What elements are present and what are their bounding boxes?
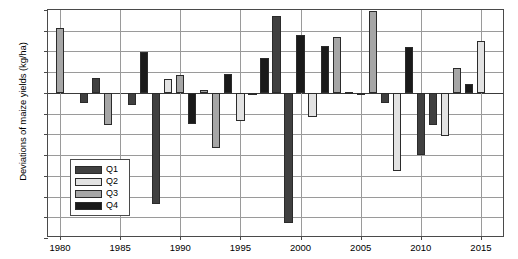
legend: Q1Q2Q3Q4 xyxy=(70,159,130,216)
legend-label: Q3 xyxy=(106,189,118,198)
bar xyxy=(345,92,353,94)
legend-item-q1[interactable]: Q1 xyxy=(75,164,125,175)
vertical-gridline xyxy=(240,10,241,236)
y-tick-mark xyxy=(44,197,48,198)
y-tick-mark xyxy=(44,72,48,73)
bar xyxy=(260,58,268,93)
legend-item-q2[interactable]: Q2 xyxy=(75,176,125,187)
bar xyxy=(140,52,148,93)
x-tick-mark xyxy=(180,236,181,240)
bar xyxy=(176,75,184,92)
y-tick-mark xyxy=(44,93,48,94)
y-tick-mark xyxy=(44,31,48,32)
x-tick-mark xyxy=(421,236,422,240)
y-axis-title: Deviations of maize yields (kg/ha) xyxy=(17,12,28,212)
bar xyxy=(405,47,413,93)
y-tick-mark xyxy=(44,114,48,115)
bar xyxy=(212,93,220,148)
bar xyxy=(200,90,208,93)
bar xyxy=(224,74,232,93)
legend-label: Q2 xyxy=(106,177,118,186)
x-tick-mark xyxy=(301,236,302,240)
x-tick-label: 1995 xyxy=(220,242,260,253)
y-tick-mark xyxy=(44,10,48,11)
bar xyxy=(188,93,196,124)
legend-swatch-q1 xyxy=(75,166,102,174)
y-tick-mark xyxy=(44,176,48,177)
bar xyxy=(104,93,112,125)
legend-swatch-q2 xyxy=(75,178,102,186)
bar xyxy=(381,93,389,103)
vertical-gridline xyxy=(180,10,181,236)
plot-area: 2000150010005000-500-1000-1500-2000-2500… xyxy=(47,9,504,237)
x-tick-label: 1990 xyxy=(160,242,200,253)
bar xyxy=(477,41,485,93)
x-tick-mark xyxy=(120,236,121,240)
gridline xyxy=(48,217,503,218)
bar xyxy=(128,93,136,105)
bar xyxy=(429,93,437,125)
legend-swatch-q3 xyxy=(75,190,102,198)
bar xyxy=(56,28,64,93)
gridline xyxy=(48,134,503,135)
bar xyxy=(333,37,341,93)
bar xyxy=(357,93,365,95)
x-tick-label: 2010 xyxy=(401,242,441,253)
x-tick-label: 2000 xyxy=(281,242,321,253)
x-tick-mark xyxy=(361,236,362,240)
y-tick-mark xyxy=(44,217,48,218)
bar xyxy=(152,93,160,204)
x-tick-label: 1985 xyxy=(100,242,140,253)
gridline xyxy=(48,155,503,156)
x-tick-label: 2005 xyxy=(341,242,381,253)
bar xyxy=(465,84,473,93)
bar xyxy=(80,93,88,103)
maize-yield-deviation-chart: Deviations of maize yields (kg/ha) 20001… xyxy=(0,0,518,259)
bar xyxy=(453,68,461,93)
bar xyxy=(321,46,329,93)
bar xyxy=(296,35,304,93)
bar xyxy=(369,11,377,93)
bar xyxy=(417,93,425,155)
bar xyxy=(441,93,449,137)
vertical-gridline xyxy=(361,10,362,236)
bar xyxy=(92,78,100,93)
legend-swatch-q4 xyxy=(75,202,102,210)
bar xyxy=(164,79,172,93)
x-tick-mark xyxy=(60,236,61,240)
bar xyxy=(236,93,244,121)
bar xyxy=(393,93,401,171)
legend-label: Q4 xyxy=(106,201,118,210)
bar xyxy=(308,93,316,117)
x-tick-mark xyxy=(481,236,482,240)
y-tick-mark xyxy=(44,134,48,135)
bar xyxy=(248,93,256,95)
legend-item-q4[interactable]: Q4 xyxy=(75,200,125,211)
x-tick-label: 1980 xyxy=(40,242,80,253)
legend-label: Q1 xyxy=(106,165,118,174)
y-tick-mark xyxy=(44,155,48,156)
bar xyxy=(272,16,280,93)
legend-item-q3[interactable]: Q3 xyxy=(75,188,125,199)
y-tick-mark xyxy=(44,51,48,52)
x-tick-mark xyxy=(240,236,241,240)
bar xyxy=(284,93,292,224)
y-tick-mark xyxy=(44,238,48,239)
x-tick-label: 2015 xyxy=(461,242,501,253)
